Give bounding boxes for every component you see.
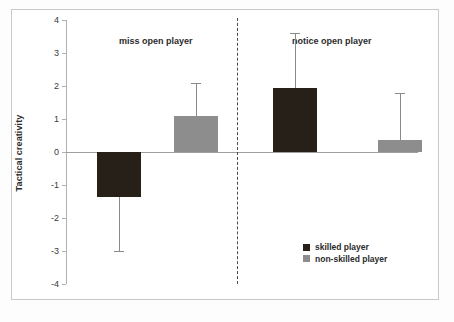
y-axis-tick-label: 0 — [54, 147, 59, 157]
chart-legend: skilled playernon-skilled player — [303, 243, 387, 266]
error-bar-cap-non-skilled-group2 — [395, 93, 405, 94]
y-axis-tick-mark — [62, 53, 66, 54]
error-bar-line-skilled-group2 — [295, 33, 296, 87]
y-axis-tick-mark — [62, 251, 66, 252]
legend-item-skilled: skilled player — [303, 243, 387, 252]
legend-label: non-skilled player — [315, 255, 387, 264]
y-axis-tick-label: 2 — [54, 81, 59, 91]
y-axis-tick-mark — [62, 218, 66, 219]
error-bar-line-skilled-group1 — [119, 197, 120, 251]
figure: Tactical creativity 43210-1-2-3-4 miss o… — [0, 0, 454, 322]
legend-item-nonskilled: non-skilled player — [303, 255, 387, 264]
error-bar-line-non-skilled-group2 — [400, 93, 401, 141]
group-title-1: miss open player — [119, 36, 193, 46]
legend-label: skilled player — [315, 243, 369, 252]
y-axis-tick-label: -4 — [51, 279, 59, 289]
bar-non-skilled-group1 — [174, 116, 218, 152]
error-bar-cap-non-skilled-group1 — [191, 83, 201, 84]
y-axis-tick-mark — [62, 86, 66, 87]
y-axis-tick-mark — [62, 119, 66, 120]
legend-swatch-skilled — [303, 244, 310, 251]
y-axis-title: Tactical creativity — [14, 93, 24, 213]
error-bar-cap-skilled-group1 — [114, 251, 124, 252]
legend-swatch-nonskilled — [303, 255, 310, 262]
y-axis-tick-mark — [62, 185, 66, 186]
bar-skilled-group2 — [273, 88, 317, 152]
bar-non-skilled-group2 — [378, 140, 422, 152]
error-bar-cap-skilled-group2 — [290, 33, 300, 34]
y-axis-tick-label: -1 — [51, 180, 59, 190]
y-axis-tick-label: 4 — [54, 15, 59, 25]
bar-skilled-group1 — [97, 152, 141, 197]
y-axis-tick-label: 3 — [54, 48, 59, 58]
error-bar-line-non-skilled-group1 — [196, 83, 197, 116]
y-axis-tick-label: 1 — [54, 114, 59, 124]
y-axis-tick-mark — [62, 20, 66, 21]
y-axis-tick-label: -2 — [51, 213, 59, 223]
group-title-2: notice open player — [292, 36, 372, 46]
y-axis-tick-mark — [62, 284, 66, 285]
group-divider-dashed — [237, 18, 238, 284]
y-axis-tick-label: -3 — [51, 246, 59, 256]
